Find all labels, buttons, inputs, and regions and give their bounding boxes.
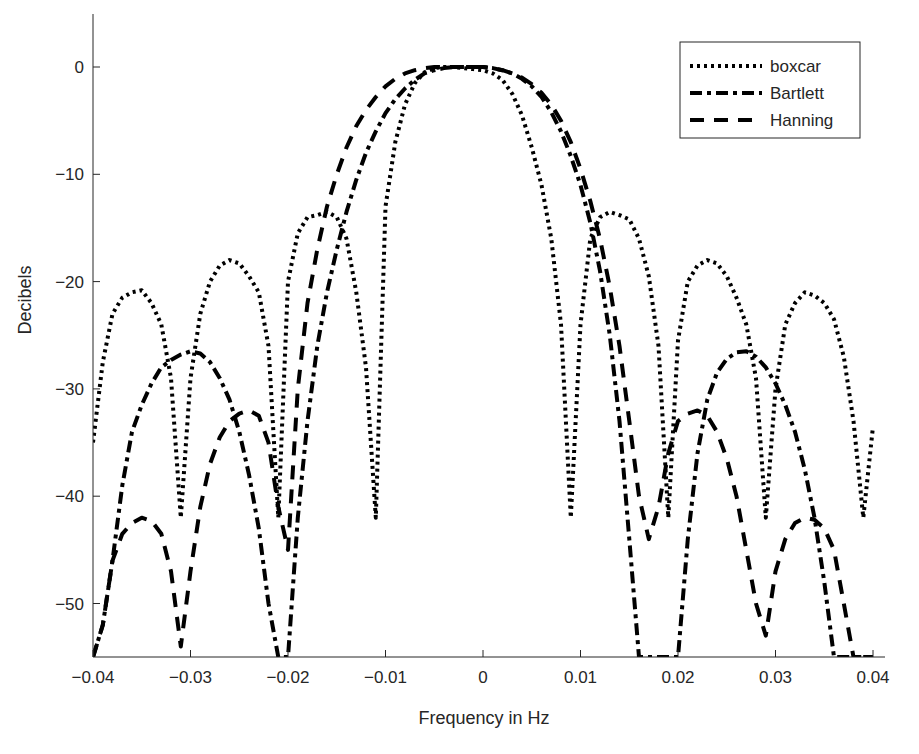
y-tick-label: 0 — [75, 58, 84, 77]
x-tick-label: 0.03 — [759, 668, 792, 687]
x-tick-label: 0.04 — [856, 668, 889, 687]
legend: boxcarBartlettHanning — [680, 42, 860, 138]
y-tick-label: −20 — [55, 273, 84, 292]
legend-label-boxcar: boxcar — [770, 57, 821, 76]
series-layer — [93, 67, 873, 657]
y-tick-label: −10 — [55, 165, 84, 184]
series-line-bartlett — [93, 67, 873, 657]
y-tick-label: −50 — [55, 595, 84, 614]
x-axis-title: Frequency in Hz — [418, 708, 549, 728]
y-tick-label: −30 — [55, 380, 84, 399]
y-tick-label: −40 — [55, 487, 84, 506]
x-tick-label: 0.01 — [564, 668, 597, 687]
x-tick-label: −0.01 — [364, 668, 407, 687]
x-tick-label: −0.02 — [266, 668, 309, 687]
x-tick-label: −0.03 — [169, 668, 212, 687]
y-axis-title: Decibels — [15, 265, 35, 334]
x-tick-label: 0.02 — [661, 668, 694, 687]
legend-label-hanning: Hanning — [770, 111, 833, 130]
x-tick-label: −0.04 — [71, 668, 114, 687]
x-axis-ticks: −0.04−0.03−0.02−0.0100.010.020.030.04 — [71, 650, 889, 687]
chart-canvas: −0.04−0.03−0.02−0.0100.010.020.030.04 0−… — [0, 0, 919, 754]
x-tick-label: 0 — [478, 668, 487, 687]
legend-label-bartlett: Bartlett — [770, 84, 824, 103]
